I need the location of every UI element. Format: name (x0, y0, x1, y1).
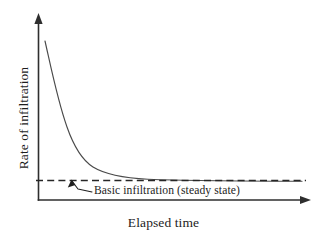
x-axis-arrowhead (300, 196, 311, 204)
steady-state-annotation-label: Basic infiltration (steady state) (94, 184, 240, 197)
annotation-leader-line (72, 181, 93, 193)
y-axis-label: Rate of infiltration (16, 38, 32, 198)
infiltration-chart-figure: Basic infiltration (steady state) Elapse… (0, 0, 327, 241)
y-axis-arrowhead (34, 13, 42, 24)
infiltration-rate-curve (45, 41, 302, 181)
chart-canvas (0, 0, 327, 241)
x-axis-label: Elapsed time (0, 215, 327, 231)
